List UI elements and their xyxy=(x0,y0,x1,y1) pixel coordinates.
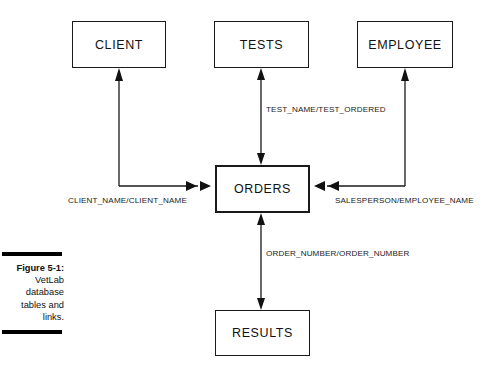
entity-box-results[interactable]: RESULTS xyxy=(215,310,310,356)
entity-box-tests[interactable]: TESTS xyxy=(214,21,309,68)
caption-line-4: links. xyxy=(2,311,64,323)
caption-text: Figure 5-1: VetLab database tables and l… xyxy=(2,256,64,327)
figure-number: Figure 5-1: xyxy=(2,262,64,274)
connector-employee-orders xyxy=(314,68,409,191)
link-label-tests-orders: TEST_NAME/TEST_ORDERED xyxy=(266,105,386,114)
entity-box-orders[interactable]: ORDERS xyxy=(215,165,310,213)
entity-label-employee: EMPLOYEE xyxy=(368,38,442,52)
caption-line-1: VetLab xyxy=(2,274,64,286)
link-label-orders-results: ORDER_NUMBER/ORDER_NUMBER xyxy=(266,249,410,258)
entity-label-client: CLIENT xyxy=(95,38,143,52)
entity-label-tests: TESTS xyxy=(240,38,283,52)
entity-label-orders: ORDERS xyxy=(234,182,291,196)
link-label-client-orders: CLIENT_NAME/CLIENT_NAME xyxy=(68,196,187,205)
connector-tests-orders xyxy=(257,68,265,165)
figure-caption: Figure 5-1: VetLab database tables and l… xyxy=(2,252,64,334)
entity-box-employee[interactable]: EMPLOYEE xyxy=(357,21,453,68)
caption-line-3: tables and xyxy=(2,299,64,311)
caption-rule-bottom xyxy=(2,330,62,334)
connector-client-orders xyxy=(115,68,211,191)
entity-box-client[interactable]: CLIENT xyxy=(72,21,166,68)
caption-line-2: database xyxy=(2,286,64,298)
entity-label-results: RESULTS xyxy=(232,326,293,340)
connector-orders-results xyxy=(257,213,265,310)
link-label-employee-orders: SALESPERSON/EMPLOYEE_NAME xyxy=(335,196,474,205)
